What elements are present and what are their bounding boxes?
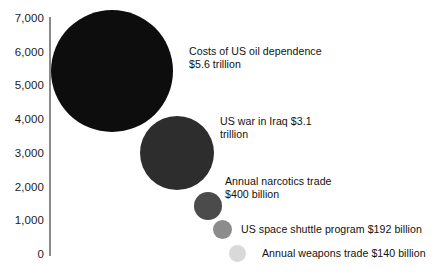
- y-tick-label: 2,000: [0, 181, 44, 193]
- bubble-costs-of-us-oil-dependence: [51, 10, 173, 132]
- y-tick-label: 3,000: [0, 147, 44, 159]
- bubble-annual-narcotics-trade: [194, 192, 222, 220]
- bubble-label-annual-weapons-trade: Annual weapons trade $140 billion: [262, 247, 426, 260]
- y-axis-line: [49, 17, 51, 256]
- bubble-label-us-war-in-iraq: US war in Iraq $3.1 trillion: [220, 115, 312, 140]
- y-tick-label: 5,000: [0, 79, 44, 91]
- bubble-us-war-in-iraq: [140, 116, 214, 190]
- bubble-label-us-space-shuttle-program: US space shuttle program $192 billion: [241, 223, 422, 236]
- y-tick-label: 6,000: [0, 46, 44, 58]
- bubble-label-annual-narcotics-trade: Annual narcotics trade $400 billion: [225, 175, 332, 200]
- bubble-label-costs-of-us-oil-dependence: Costs of US oil dependence $5.6 trillion: [189, 45, 322, 70]
- y-tick-label: 1,000: [0, 214, 44, 226]
- bubble-us-space-shuttle-program: [213, 220, 232, 239]
- y-tick-label: 0: [0, 248, 44, 260]
- bubble-annual-weapons-trade: [229, 245, 246, 262]
- y-tick-label: 4,000: [0, 113, 44, 125]
- bubble-chart: 7,0006,0005,0004,0003,0002,0001,0000 Cos…: [0, 0, 432, 275]
- y-tick-label: 7,000: [0, 12, 44, 24]
